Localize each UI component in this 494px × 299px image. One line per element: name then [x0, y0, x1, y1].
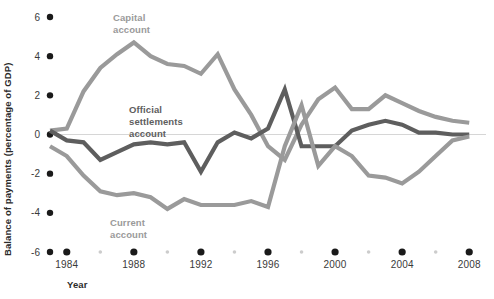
x-tick-label: 2000	[324, 259, 347, 270]
y-axis-tick-labels: 6420-2-4-6	[31, 12, 40, 258]
y-tick-label: 0	[34, 129, 40, 140]
series-annotation-current-account: Current account	[110, 217, 148, 240]
series-line-current-account	[50, 105, 469, 209]
y-tick-label: 2	[34, 90, 40, 101]
x-axis-tick-dots	[63, 248, 473, 255]
y-tick-dot	[47, 170, 53, 176]
official-settlements-label-line3: account	[129, 128, 167, 139]
series-annotation-official-settlements-account: Official settlements account	[129, 104, 183, 139]
x-tick-label: 2008	[458, 259, 481, 270]
x-minor-tick-dot	[300, 250, 304, 254]
x-minor-tick-dot	[166, 250, 170, 254]
y-axis-title: Balance of payments (percentage of GDP)	[2, 63, 13, 256]
x-tick-dot	[264, 248, 271, 255]
current-account-label-line2: account	[110, 229, 148, 240]
x-minor-tick-dot	[99, 250, 103, 254]
capital-account-label-line2: account	[113, 24, 151, 35]
y-tick-dot	[47, 53, 53, 59]
x-minor-tick-dot	[367, 250, 371, 254]
y-tick-label: 6	[34, 12, 40, 23]
x-tick-label: 2004	[391, 259, 414, 270]
y-tick-dot	[47, 249, 53, 255]
y-tick-dot	[47, 210, 53, 216]
x-axis-title: Year	[67, 279, 88, 290]
y-tick-label: -2	[31, 168, 40, 179]
current-account-label-line1: Current	[110, 217, 146, 228]
x-tick-dot	[466, 248, 473, 255]
x-minor-tick-dot	[434, 250, 438, 254]
x-tick-dot	[197, 248, 204, 255]
x-tick-dot	[63, 248, 70, 255]
series-line-capital-account	[50, 42, 469, 160]
x-tick-dot	[399, 248, 406, 255]
y-tick-dot	[47, 92, 53, 98]
x-tick-dot	[130, 248, 137, 255]
x-tick-label: 1996	[256, 259, 279, 270]
series-annotation-capital-account: Capital account	[113, 12, 151, 35]
official-settlements-label-line2: settlements	[129, 116, 183, 127]
y-tick-label: -4	[31, 207, 40, 218]
y-tick-label: 4	[34, 51, 40, 62]
x-tick-label: 1984	[55, 259, 78, 270]
y-axis-tick-dots	[47, 14, 53, 255]
series-lines-group	[50, 42, 469, 208]
x-tick-label: 1988	[122, 259, 145, 270]
chart-figure: 6420-2-4-6 1984198819921996200020042008 …	[0, 0, 494, 299]
x-axis-tick-labels: 1984198819921996200020042008	[55, 259, 481, 270]
official-settlements-label-line1: Official	[129, 104, 162, 115]
x-tick-dot	[331, 248, 338, 255]
y-tick-dot	[47, 14, 53, 20]
line-chart-canvas: 6420-2-4-6 1984198819921996200020042008 …	[0, 0, 494, 299]
x-minor-tick-dot	[233, 250, 237, 254]
x-tick-label: 1992	[189, 259, 212, 270]
y-tick-label: -6	[31, 247, 40, 258]
capital-account-label-line1: Capital	[113, 12, 145, 23]
